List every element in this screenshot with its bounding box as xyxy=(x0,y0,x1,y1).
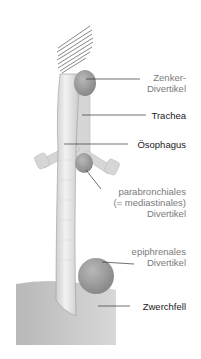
epiphrenal-diverticulum xyxy=(78,258,114,294)
label-zenker-diverticulum: Zenker- Divertikel xyxy=(147,72,186,94)
label-epiphrenal-diverticulum: epiphrenales Divertikel xyxy=(132,246,186,268)
label-line: Divertikel xyxy=(113,208,186,219)
pharyngeal-muscle xyxy=(57,26,93,73)
label-line: Divertikel xyxy=(132,257,186,268)
esophagus xyxy=(56,74,80,316)
label-parabronchial-diverticulum: parabronchiales (= mediastinales) Divert… xyxy=(113,186,186,219)
zenker-diverticulum xyxy=(74,70,96,96)
label-line: Ösophagus xyxy=(137,139,186,150)
label-line: epiphrenales xyxy=(132,246,186,257)
label-zwerchfell: Zwerchfell xyxy=(143,301,186,312)
label-line: Divertikel xyxy=(147,83,186,94)
label-line: parabronchiales xyxy=(113,186,186,197)
label-line: (= mediastinales) xyxy=(113,197,186,208)
label-line: Zwerchfell xyxy=(143,301,186,312)
label-trachea: Trachea xyxy=(152,110,187,121)
label-line: Trachea xyxy=(152,110,187,121)
parabronchial-diverticulum xyxy=(75,153,93,173)
label-oesophagus: Ösophagus xyxy=(137,139,186,150)
label-line: Zenker- xyxy=(147,72,186,83)
